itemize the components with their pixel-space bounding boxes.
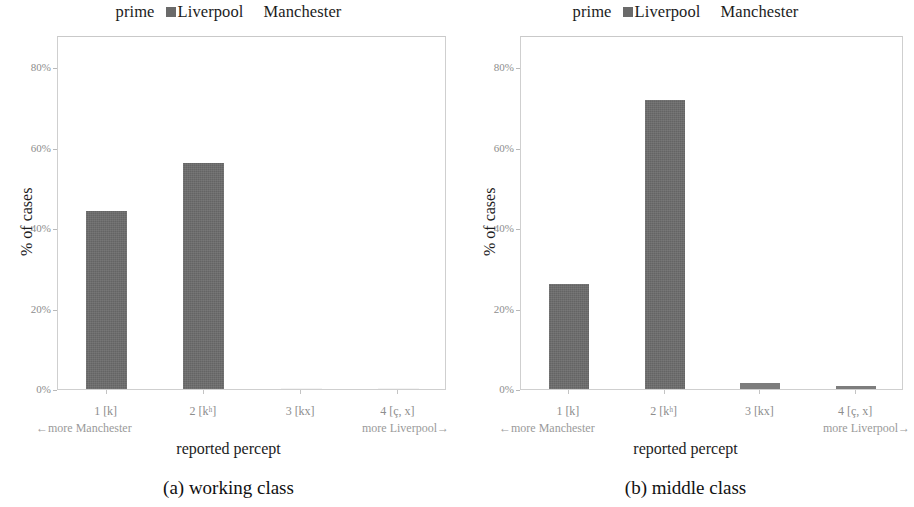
x-annotation-right-a: more Liverpool→ xyxy=(362,421,449,436)
x-tick-label-4: 4 [ç, x] xyxy=(838,404,872,419)
plot-area-b xyxy=(520,36,903,390)
x-annotation-left-b: ←more Manchester xyxy=(499,421,595,436)
plot-area-a xyxy=(57,36,446,390)
y-tick-label-0: 0% xyxy=(13,383,51,395)
x-tick-mark-2 xyxy=(664,390,665,394)
bar-4 xyxy=(378,388,419,389)
y-tick-mark-40 xyxy=(516,229,520,230)
panel-working-class: prime Liverpool Manchester 0%20%40%60%80… xyxy=(0,0,457,507)
plot-inner-a xyxy=(58,37,445,389)
y-tick-label-0: 0% xyxy=(476,383,514,395)
legend-label-manchester: Manchester xyxy=(721,2,799,22)
y-tick-mark-80 xyxy=(53,68,57,69)
x-tick-mark-2 xyxy=(203,390,204,394)
legend-a: prime Liverpool Manchester xyxy=(0,2,457,22)
legend-title-prime: prime xyxy=(573,2,612,22)
y-tick-label-60: 60% xyxy=(476,142,514,154)
y-tick-mark-60 xyxy=(53,149,57,150)
x-tick-mark-3 xyxy=(759,390,760,394)
y-axis-title-a: % of cases xyxy=(18,188,36,256)
y-tick-mark-60 xyxy=(516,149,520,150)
y-tick-mark-20 xyxy=(53,310,57,311)
legend-b: prime Liverpool Manchester xyxy=(457,2,914,22)
panel-caption-a: (a) working class xyxy=(0,477,457,499)
panel-middle-class: prime Liverpool Manchester 0%20%40%60%80… xyxy=(457,0,914,507)
legend-title-prime: prime xyxy=(116,2,155,22)
bar-2 xyxy=(183,163,224,389)
x-axis-title-a: reported percept xyxy=(0,440,457,458)
x-tick-label-2: 2 [kʰ] xyxy=(189,404,216,419)
y-tick-mark-0 xyxy=(516,390,520,391)
x-tick-label-1: 1 [k] xyxy=(556,404,579,419)
x-tick-label-3: 3 [kx] xyxy=(745,404,774,419)
legend-swatch-liverpool-icon xyxy=(166,7,176,17)
figure-two-panel-bar-charts: prime Liverpool Manchester 0%20%40%60%80… xyxy=(0,0,914,507)
bar-3 xyxy=(281,388,322,389)
legend-swatch-liverpool-icon xyxy=(623,7,633,17)
bar-1 xyxy=(549,284,589,389)
x-tick-label-1: 1 [k] xyxy=(94,404,117,419)
x-tick-mark-1 xyxy=(568,390,569,394)
y-axis-title-b: % of cases xyxy=(481,188,499,256)
y-tick-mark-40 xyxy=(53,229,57,230)
x-tick-label-4: 4 [ç, x] xyxy=(380,404,414,419)
x-tick-label-3: 3 [kx] xyxy=(286,404,315,419)
y-tick-mark-80 xyxy=(516,68,520,69)
y-tick-label-60: 60% xyxy=(13,142,51,154)
x-annotation-right-b: more Liverpool→ xyxy=(823,421,910,436)
bar-3 xyxy=(740,383,780,389)
bar-4 xyxy=(836,386,876,389)
y-tick-mark-20 xyxy=(516,310,520,311)
y-tick-label-20: 20% xyxy=(476,303,514,315)
y-tick-mark-0 xyxy=(53,390,57,391)
x-annotation-left-a: ←more Manchester xyxy=(36,421,132,436)
plot-inner-b xyxy=(521,37,902,389)
bar-2 xyxy=(645,100,685,389)
x-tick-mark-4 xyxy=(855,390,856,394)
y-tick-label-80: 80% xyxy=(476,61,514,73)
legend-label-liverpool: Liverpool xyxy=(635,2,701,22)
legend-label-manchester: Manchester xyxy=(264,2,342,22)
x-tick-mark-1 xyxy=(106,390,107,394)
x-tick-label-2: 2 [kʰ] xyxy=(650,404,677,419)
y-tick-label-80: 80% xyxy=(13,61,51,73)
panel-caption-b: (b) middle class xyxy=(457,477,914,499)
x-tick-mark-4 xyxy=(397,390,398,394)
y-tick-label-20: 20% xyxy=(13,303,51,315)
x-tick-mark-3 xyxy=(300,390,301,394)
legend-label-liverpool: Liverpool xyxy=(178,2,244,22)
bar-1 xyxy=(86,211,127,389)
x-axis-title-b: reported percept xyxy=(457,440,914,458)
